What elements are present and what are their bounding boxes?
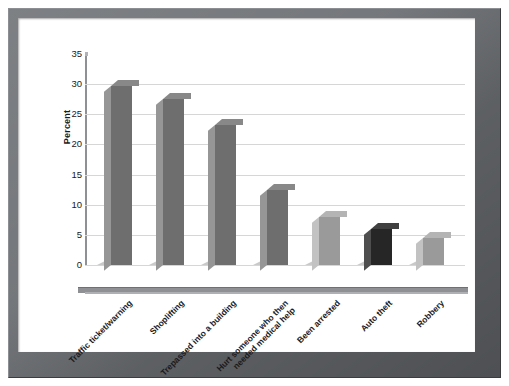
gridline-0 (85, 265, 465, 266)
x-axis-category-labels: Traffic ticket/warningShopliftingTrepass… (26, 294, 483, 360)
gridline-15 (85, 175, 465, 176)
bar-front-face (267, 190, 288, 265)
figure-root: Percent 05101520253035 Traffic ticket/wa… (0, 0, 509, 386)
y-tick-label-25: 25 (60, 109, 82, 119)
bar (319, 217, 347, 265)
bar-front-face (163, 99, 184, 265)
y-tick-label-35: 35 (60, 49, 82, 59)
bar-side-face (104, 86, 111, 271)
bar-side-face (156, 99, 163, 271)
y-axis-line-cap (85, 52, 88, 56)
bar-side-face (312, 217, 319, 271)
bar-front-face (423, 238, 444, 265)
gridline-25 (85, 114, 465, 115)
bar-front-face (371, 229, 392, 265)
gridline-20 (85, 144, 465, 145)
bar (111, 86, 139, 265)
y-tick-label-5: 5 (60, 230, 82, 240)
bar-side-face (208, 125, 215, 271)
y-tick-label-15: 15 (60, 170, 82, 180)
bar (163, 99, 191, 265)
plot-area (85, 48, 465, 271)
y-tick-label-30: 30 (60, 79, 82, 89)
bar (423, 238, 451, 265)
bar (267, 190, 295, 265)
y-axis-tick-labels: 05101520253035 (58, 48, 82, 271)
y-tick-label-10: 10 (60, 200, 82, 210)
gridline-30 (85, 84, 465, 85)
bar-front-face (215, 125, 236, 265)
bar (371, 229, 399, 265)
bar-side-face (364, 229, 371, 271)
bar-side-face (416, 238, 423, 271)
y-tick-label-20: 20 (60, 139, 82, 149)
bar-chart: Percent 05101520253035 Traffic ticket/wa… (26, 26, 483, 360)
bar-side-face (260, 190, 267, 271)
bar-front-face (111, 86, 132, 265)
y-tick-label-0: 0 (60, 260, 82, 270)
bar (215, 125, 243, 265)
bar-front-face (319, 217, 340, 265)
